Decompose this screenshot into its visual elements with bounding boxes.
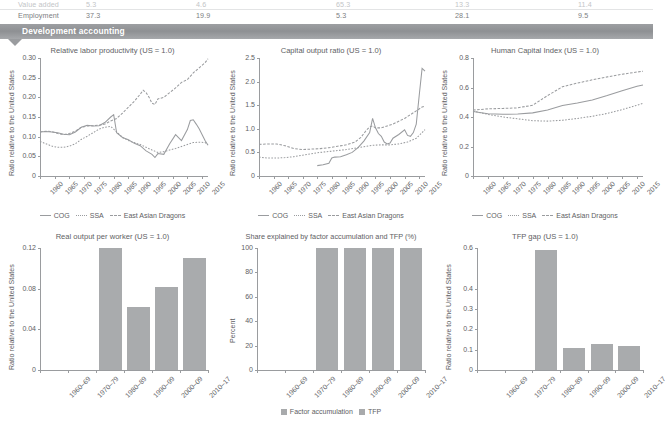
legend-label: SSA [522, 212, 536, 219]
legend-label: COG [272, 212, 288, 219]
axis-tick-label-x: 1980–89 [560, 375, 584, 399]
axis-tick-x [40, 370, 41, 373]
axis-tick-x [341, 370, 342, 373]
table-remnant: Value added 5.3 4.6 65.3 13.3 11.4 Emplo… [0, 0, 653, 22]
series-ssa [473, 103, 643, 121]
table-row: Value added 5.3 4.6 65.3 13.3 11.4 [0, 0, 653, 11]
axis-tick-y [475, 289, 478, 290]
legend-line-dot [294, 215, 305, 216]
legend-line-dash [328, 215, 339, 216]
legend-item: Factor accumulation [281, 408, 353, 415]
axis-tick-label-y: 0.6 [445, 244, 473, 251]
legend-label: SSA [308, 212, 322, 219]
table-cell-label: Employment [18, 11, 59, 20]
chart-legend: COGSSAEast Asian Dragons [225, 212, 437, 219]
bar-segment [372, 248, 394, 370]
axis-label-y: Ratio relative to the United States [229, 70, 237, 176]
axis-tick-x [505, 370, 506, 373]
bar [155, 287, 178, 370]
chart-human-capital-index: Human Capital Index (US = 1.0) 00.20.40.… [437, 44, 653, 230]
axis-tick-y [255, 248, 258, 249]
legend-line-solid [472, 215, 483, 216]
bar [563, 348, 585, 370]
table-cell: 37.3 [86, 11, 100, 20]
axis-tick-x [425, 370, 426, 373]
bar-segment [316, 248, 338, 370]
bar [99, 248, 122, 370]
axis-tick-y [38, 248, 41, 249]
legend-item: COG [40, 212, 70, 219]
legend-item: COG [472, 212, 502, 219]
axis-label-y: Ratio relative to the United States [441, 70, 449, 176]
axis-tick-x [615, 370, 616, 373]
axis-tick-y [38, 329, 41, 330]
chart-real-output-per-worker: Real output per worker (US = 1.0) 00.040… [0, 230, 225, 430]
legend-item: SSA [294, 212, 322, 219]
legend-item: East Asian Dragons [328, 212, 403, 219]
axis-label-y: Ratio relative to the United States [8, 264, 16, 370]
axis-tick-label-x: 1990–99 [588, 375, 612, 399]
legend-line-dot [508, 215, 519, 216]
axis-tick-label-x: 2000–09 [615, 375, 639, 399]
axis-tick-y [475, 309, 478, 310]
axis-tick-x [96, 370, 97, 373]
chart-title: Real output per worker (US = 1.0) [0, 232, 225, 241]
series-cog [473, 85, 643, 114]
axis-tick-x [313, 370, 314, 373]
series-east-asian-dragons [473, 71, 643, 110]
legend-label: East Asian Dragons [124, 212, 185, 219]
legend-item: East Asian Dragons [542, 212, 617, 219]
table-cell: 5.3 [86, 0, 96, 9]
axis-tick-x [560, 370, 561, 373]
axis-tick-label-y: 0.12 [8, 244, 36, 251]
chart-share-factor-accumulation-tfp: Share explained by factor accumulation a… [225, 230, 437, 430]
legend-label: TFP [368, 408, 381, 415]
chart-grid: Relative labor productivity (US = 1.0) 0… [0, 44, 653, 430]
axis-tick-y [38, 289, 41, 290]
axis-tick-label-x: 1970–79 [532, 375, 556, 399]
table-cell-label: Value added [18, 0, 59, 9]
series-east-asian-dragons [40, 59, 208, 135]
axis-tick-label-x: 1960–69 [68, 375, 92, 399]
legend-label: East Asian Dragons [556, 212, 617, 219]
legend-item: COG [258, 212, 288, 219]
axis-label-y: Percent [229, 319, 237, 343]
legend-label: East Asian Dragons [342, 212, 403, 219]
legend-swatch-factor [281, 409, 287, 415]
axis-tick-label-y: 100 [225, 244, 253, 251]
axis-tick-label-y: 0 [225, 366, 253, 373]
axis-tick-x [68, 370, 69, 373]
table-divider [0, 9, 653, 10]
table-cell: 5.3 [336, 11, 346, 20]
chart-title: TFP gap (US = 1.0) [437, 232, 653, 241]
series-ssa [40, 126, 208, 152]
bar [618, 346, 640, 370]
axis-tick-x [285, 370, 286, 373]
legend-swatch-tfp [359, 409, 365, 415]
axis-tick-label-x: 1960–69 [285, 375, 309, 399]
axis-tick-label-x: 2010–17 [643, 375, 667, 399]
table-cell: 13.3 [455, 0, 469, 9]
axis-tick-x [369, 370, 370, 373]
axis-tick-y [255, 297, 258, 298]
legend-line-dash [110, 215, 121, 216]
chart-capital-output-ratio: Capital output ratio (US = 1.0) 00.51.01… [225, 44, 437, 230]
bar [591, 344, 613, 370]
axis-tick-y [255, 321, 258, 322]
legend-item: SSA [508, 212, 536, 219]
table-cell: 28.1 [455, 11, 469, 20]
bar-segment [344, 248, 366, 370]
axis-tick-x [124, 370, 125, 373]
legend-line-solid [40, 215, 51, 216]
axis-tick-label-x: 1980–89 [341, 375, 365, 399]
section-banner-title: Development accounting [22, 26, 125, 36]
axis-tick-label-x: 1980–89 [124, 375, 148, 399]
series-east-asian-dragons [259, 106, 425, 149]
axis-tick-label-y: 80 [225, 268, 253, 275]
legend-item: SSA [76, 212, 104, 219]
legend-item: East Asian Dragons [110, 212, 185, 219]
axis-tick-x [397, 370, 398, 373]
axis-tick-x [208, 370, 209, 373]
table-cell: 65.3 [336, 0, 350, 9]
axis-tick-y [255, 272, 258, 273]
